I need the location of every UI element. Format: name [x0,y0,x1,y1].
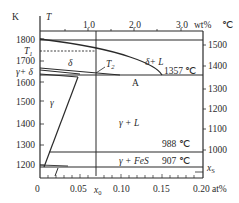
right-unit-label: ℃ [222,20,233,30]
top-tick-3: 3.0 [176,20,188,30]
left-unit-label: K [12,12,19,22]
top-tick-1: 1.0 [83,20,95,30]
left-tick-1800: 1800 [16,35,35,45]
left-tick-1300: 1300 [16,140,35,150]
left-tick-1600: 1600 [16,78,35,88]
right-tick-1400: 1400 [208,61,227,71]
bottom-tick-015: 0.15 [153,184,170,194]
t2-pointer [96,67,105,73]
region-gamma-fes: γ + FeS [119,156,149,166]
region-delta-liquid: δ+ L [145,57,164,67]
region-gamma: γ [50,98,54,108]
label-988: 988 ℃ [162,139,190,149]
point-a: A [132,78,139,88]
region-gamma-liquid: γ + L [119,118,139,128]
bottom-tick-0: 0 [35,184,40,194]
right-tick-1000: 1000 [208,145,227,155]
left-tick-1500: 1500 [16,97,35,107]
top-unit-label: wt% [194,20,212,30]
left-tick-1200: 1200 [16,160,35,170]
label-1357: 1357 ℃ [164,66,196,76]
right-label-xs: xS [206,163,215,174]
phase-diagram: K T 1.0 2.0 3.0 wt% ℃ 1800 T1 1700 γ+ δ … [0,0,239,203]
solvus-line [55,168,58,176]
top-tick-2: 2.0 [129,20,141,30]
right-tick-1500: 1500 [208,40,227,50]
bottom-tick-005: 0.05 [70,184,87,194]
bottom-tick-020: 0.20 at% [193,184,227,194]
region-delta: δ [68,58,73,68]
left-label-gamma-delta: γ+ δ [16,67,34,77]
bottom-tick-010: 0.10 [113,184,130,194]
right-tick-1300: 1300 [208,84,227,94]
left-tick-1700: 1700 [16,56,35,66]
right-tick-1100: 1100 [208,124,227,134]
right-tick-1200: 1200 [208,104,227,114]
gamma-solidus [44,77,78,167]
label-t2: T2 [106,59,115,70]
label-907: 907 ℃ [162,156,190,166]
phase-lines [40,31,203,176]
bottom-label-x0: x0 [93,185,101,196]
left-tick-1400: 1400 [16,119,35,129]
top-var-label: T [46,12,52,22]
